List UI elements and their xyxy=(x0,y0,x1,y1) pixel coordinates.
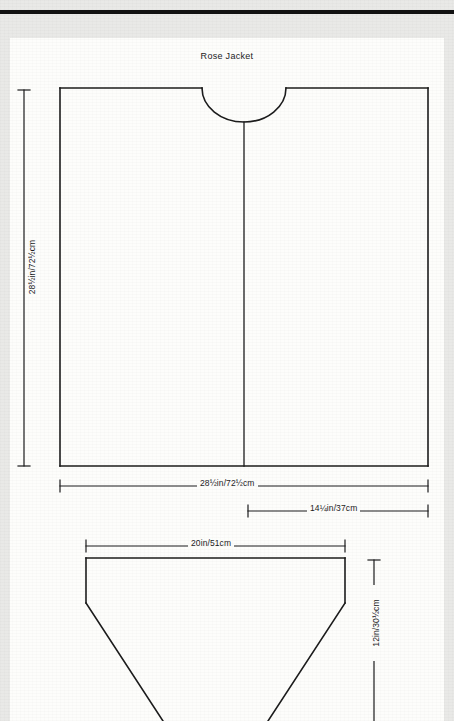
scanned-page: Rose Jacket xyxy=(0,0,454,721)
page-title: Rose Jacket xyxy=(0,51,454,61)
dimension-label-sleeve-height: 12in/30½cm xyxy=(371,585,381,661)
dimension-label-body-width: 28½in/72½cm xyxy=(197,478,258,488)
sleeve-right-taper xyxy=(268,603,345,721)
dimension-label-sleeve-width: 14¼in/37cm xyxy=(307,503,360,513)
neckline-curve xyxy=(202,88,286,122)
dimension-label-body-height: 28½in/72½cm xyxy=(27,229,37,305)
pattern-diagram xyxy=(0,0,454,721)
dimension-label-sleeve-top: 20in/51cm xyxy=(188,538,234,548)
sleeve-left-taper xyxy=(86,603,163,721)
